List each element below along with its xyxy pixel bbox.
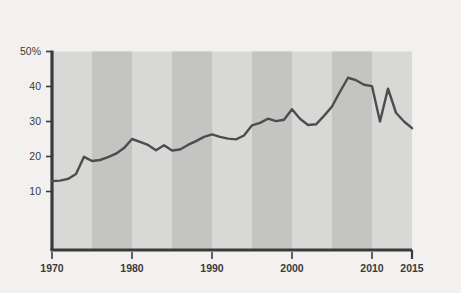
shaded-band [332,52,372,251]
x-axis-tick-label: 2015 [400,262,424,274]
line-chart-plot: 50%40302010 197019801990200020102015 [0,0,461,293]
shaded-band [92,52,132,251]
chart-container: ploton 50%40302010 197019801990200020102… [0,0,461,293]
y-axis-tick-label: 40 [29,80,41,92]
y-axis-tick-label: 30 [29,115,41,127]
x-axis-tick-label: 2010 [360,262,384,274]
x-axis-tick-label: 1970 [40,262,64,274]
x-axis-tick-label: 1990 [200,262,224,274]
y-axis-ticks-group: 50%40302010 [20,45,51,197]
shaded-band [252,52,292,251]
y-axis-tick-label: 10 [29,185,41,197]
x-axis-tick-label: 1980 [120,262,144,274]
x-axis-ticks-group: 197019801990200020102015 [40,252,424,274]
y-axis-tick-label: 20 [29,150,41,162]
x-axis-tick-label: 2000 [280,262,304,274]
y-axis-tick-label: 50% [20,45,41,57]
